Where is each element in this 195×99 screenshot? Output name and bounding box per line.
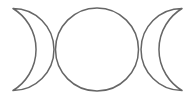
full-moon-icon	[56, 8, 139, 91]
triple-moon-symbol	[0, 0, 195, 99]
left-crescent-icon	[13, 9, 54, 91]
right-crescent-icon	[141, 9, 182, 91]
